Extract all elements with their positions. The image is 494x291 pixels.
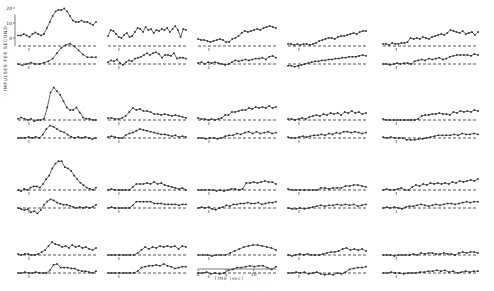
data-point [323, 113, 325, 115]
data-point [313, 135, 315, 137]
data-point [303, 43, 305, 45]
data-point [17, 207, 19, 209]
x-tick-label: 0 [197, 272, 200, 277]
data-point [354, 248, 356, 250]
data-point [95, 137, 97, 139]
data-point [181, 266, 183, 268]
data-point [137, 252, 139, 254]
data-point [133, 272, 135, 274]
data-point [23, 33, 25, 35]
data-point [31, 254, 33, 256]
data-point [295, 208, 297, 210]
data-point [413, 38, 415, 40]
data-point [75, 21, 77, 23]
data-point [197, 207, 199, 209]
data-point [185, 136, 187, 138]
y-tick-label: 0 [9, 36, 12, 41]
data-point [59, 203, 61, 205]
data-point [178, 115, 180, 117]
data-point [159, 245, 161, 247]
data-point [134, 58, 136, 60]
data-point [39, 63, 41, 65]
data-point [398, 137, 400, 139]
data-point [447, 203, 449, 205]
data-point [311, 254, 313, 256]
data-point [41, 251, 43, 253]
data-point [69, 205, 71, 207]
data-point [417, 118, 419, 120]
data-point [35, 63, 37, 65]
data-point [81, 20, 83, 22]
data-point [308, 62, 310, 64]
data-point [293, 44, 295, 46]
data-point [291, 272, 293, 274]
data-point [306, 43, 308, 45]
data-point [225, 254, 227, 256]
data-point [409, 205, 411, 207]
data-point [123, 34, 125, 36]
data-point [275, 132, 277, 134]
data-point [238, 35, 240, 37]
data-point [317, 135, 319, 137]
data-point [150, 201, 152, 203]
lower-trace [198, 202, 276, 210]
data-point [207, 61, 209, 63]
data-point [222, 39, 224, 41]
data-point [248, 245, 250, 247]
data-point [40, 209, 42, 211]
data-point [178, 136, 180, 138]
data-point [107, 272, 109, 274]
data-point [238, 110, 240, 112]
panel-r4c5 [382, 251, 479, 278]
data-point [435, 58, 437, 60]
data-point [325, 60, 327, 62]
data-point [182, 187, 184, 189]
data-point [451, 203, 453, 205]
data-point [118, 189, 120, 191]
data-point [308, 207, 310, 209]
data-point [267, 267, 269, 269]
data-point [175, 187, 177, 189]
data-point [265, 107, 267, 109]
data-point [238, 61, 240, 63]
data-point [390, 271, 392, 273]
data-point [17, 189, 19, 191]
data-point [462, 251, 464, 253]
panel-r4c1 [17, 241, 97, 278]
data-point [211, 62, 213, 64]
data-point [454, 204, 456, 206]
data-point [415, 184, 417, 186]
data-point [167, 54, 169, 56]
data-point [92, 24, 94, 26]
data-point [160, 134, 162, 136]
data-point [332, 134, 334, 136]
data-point [72, 206, 74, 208]
data-point [52, 58, 54, 60]
data-point [442, 113, 444, 115]
data-point [48, 175, 50, 177]
data-point [386, 63, 388, 65]
data-point [448, 183, 450, 185]
data-point [357, 184, 359, 186]
data-point [95, 119, 97, 121]
data-point [428, 252, 430, 254]
data-point [20, 190, 22, 192]
data-point [421, 59, 423, 61]
data-point [407, 41, 409, 43]
data-point [201, 118, 203, 120]
data-point [43, 118, 45, 120]
data-point [343, 35, 345, 37]
lower-trace [18, 126, 96, 140]
data-point [446, 135, 448, 137]
data-point [111, 206, 113, 208]
data-point [413, 205, 415, 207]
data-point [72, 20, 74, 22]
data-point [454, 254, 456, 256]
data-point [328, 273, 330, 275]
data-point [420, 204, 422, 206]
data-point [477, 134, 479, 136]
data-point [63, 132, 65, 134]
data-point [215, 209, 217, 211]
data-point [92, 189, 94, 191]
data-point [357, 249, 359, 251]
